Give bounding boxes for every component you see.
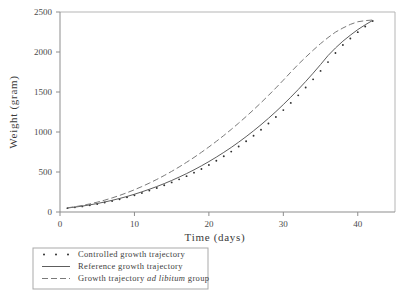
data-point: [163, 184, 165, 186]
data-point: [312, 78, 314, 80]
data-point: [320, 70, 322, 72]
x-axis-title: Time (days): [185, 231, 246, 244]
data-point: [230, 151, 232, 153]
legend-dot-sample: [43, 254, 45, 256]
legend-item-label: Controlled growth trajectory: [78, 249, 185, 259]
chart-legend: Controlled growth trajectoryReference gr…: [33, 248, 209, 289]
y-tick-label: 500: [39, 167, 53, 177]
axes: [60, 12, 395, 212]
data-point: [200, 168, 202, 170]
data-point: [253, 135, 255, 137]
y-axis-ticks: 05001000150020002500: [34, 7, 60, 217]
legend-dot-sample: [67, 254, 69, 256]
data-point: [245, 140, 247, 142]
data-point: [208, 164, 210, 166]
data-point: [238, 146, 240, 148]
data-point: [223, 155, 225, 157]
data-point: [297, 94, 299, 96]
data-point: [290, 102, 292, 104]
y-tick-label: 1000: [34, 127, 53, 137]
series-ad-libitum: [67, 20, 372, 208]
data-point: [364, 26, 366, 28]
data-point: [186, 175, 188, 177]
y-tick-label: 0: [48, 207, 53, 217]
y-tick-label: 1500: [34, 87, 53, 97]
legend-item-label: Reference growth trajectory: [78, 261, 183, 271]
data-point: [327, 61, 329, 63]
plot-frame: [60, 12, 395, 212]
data-point: [267, 123, 269, 125]
chart-canvas: 05001000150020002500 010203040 Weight (g…: [0, 0, 405, 298]
data-point: [193, 172, 195, 174]
legend-dot-sample: [55, 254, 57, 256]
data-point: [282, 109, 284, 111]
x-tick-label: 30: [279, 219, 289, 229]
series-reference-growth: [67, 20, 372, 208]
growth-trajectory-figure: 05001000150020002500 010203040 Weight (g…: [0, 0, 405, 298]
x-tick-label: 20: [204, 219, 214, 229]
data-point: [305, 87, 307, 89]
x-tick-label: 10: [130, 219, 140, 229]
x-tick-label: 0: [58, 219, 63, 229]
data-point: [178, 178, 180, 180]
y-tick-label: 2000: [34, 47, 53, 57]
data-point: [334, 52, 336, 54]
x-axis-ticks: 010203040: [58, 212, 363, 229]
data-point: [342, 44, 344, 46]
x-tick-label: 40: [353, 219, 363, 229]
series-controlled-growth: [66, 20, 373, 209]
data-point: [260, 129, 262, 131]
data-point: [171, 181, 173, 183]
data-point: [215, 160, 217, 162]
y-tick-label: 2500: [34, 7, 53, 17]
data-point: [275, 116, 277, 118]
data-point: [357, 31, 359, 33]
legend-item-label: Growth trajectory ad libitum group: [78, 273, 209, 283]
data-series-layer: [66, 20, 373, 209]
y-axis-title: Weight (gram): [7, 75, 20, 148]
data-point: [349, 38, 351, 40]
